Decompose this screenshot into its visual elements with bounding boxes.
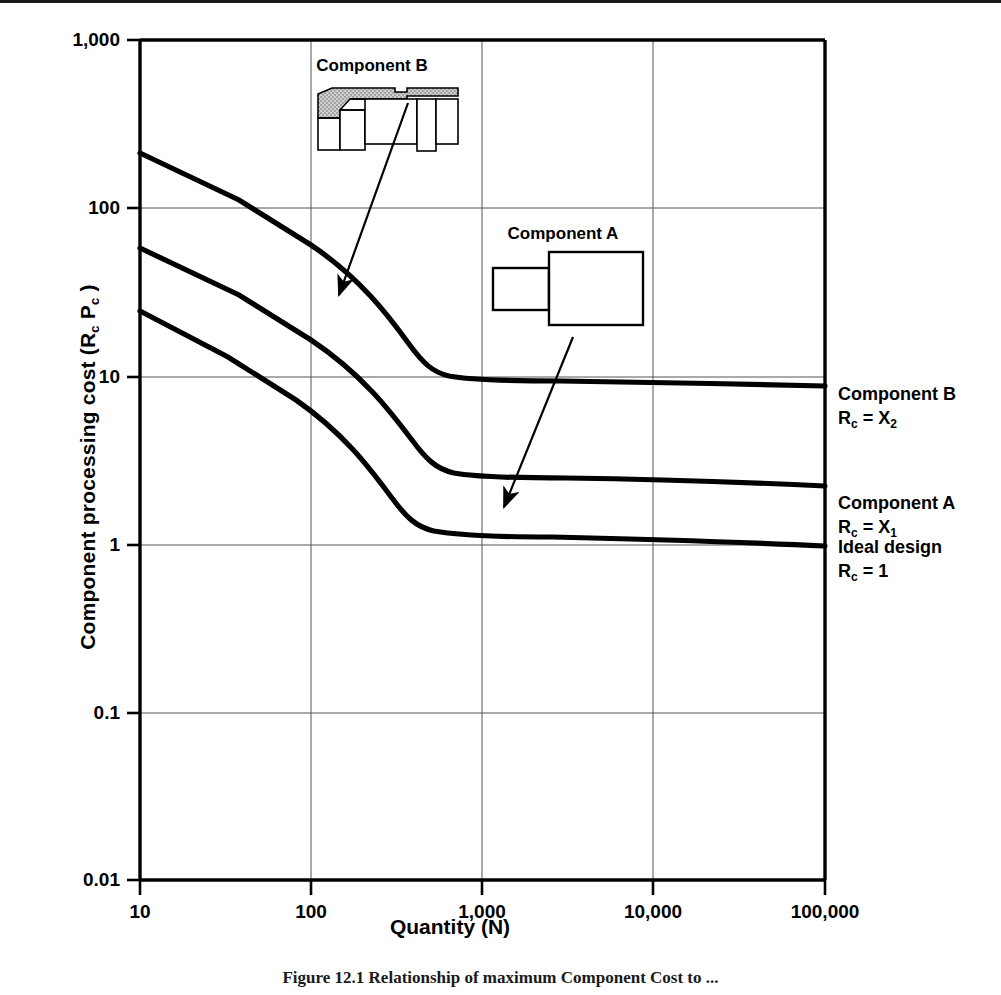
y-tick-1000: 1,000: [0, 29, 120, 51]
component-b-drawing: [318, 88, 458, 151]
figure-stage: Component processing cost (Rc Pc ) 1,000…: [0, 0, 1001, 995]
component-b-inset-title: Component B: [316, 56, 427, 76]
label-component-a-line1: Component A: [838, 491, 955, 515]
label-component-b: Component B Rc = X2: [838, 382, 956, 431]
component-a-drawing: [493, 252, 643, 325]
label-component-a: Component A Rc = X1: [838, 491, 955, 540]
y-tick-10: 10: [0, 366, 120, 388]
y-tick-100: 100: [0, 197, 120, 219]
figure-caption: Figure 12.1 Relationship of maximum Comp…: [0, 968, 1001, 988]
label-component-b-line1: Component B: [838, 382, 956, 406]
label-ideal-design-line2: Rc = 1: [838, 559, 942, 583]
component-a-inset-title: Component A: [508, 224, 619, 244]
y-tick-0.01: 0.01: [0, 869, 120, 891]
label-ideal-design: Ideal design Rc = 1: [838, 535, 942, 584]
y-tick-0.1: 0.1: [0, 702, 120, 724]
label-component-b-line2: Rc = X2: [838, 406, 956, 430]
x-axis-title: Quantity (N): [0, 915, 900, 939]
label-ideal-design-line1: Ideal design: [838, 535, 942, 559]
arrow-to-component-a: [504, 337, 573, 507]
axis-ticks: [127, 40, 825, 895]
y-tick-1: 1: [0, 534, 120, 556]
